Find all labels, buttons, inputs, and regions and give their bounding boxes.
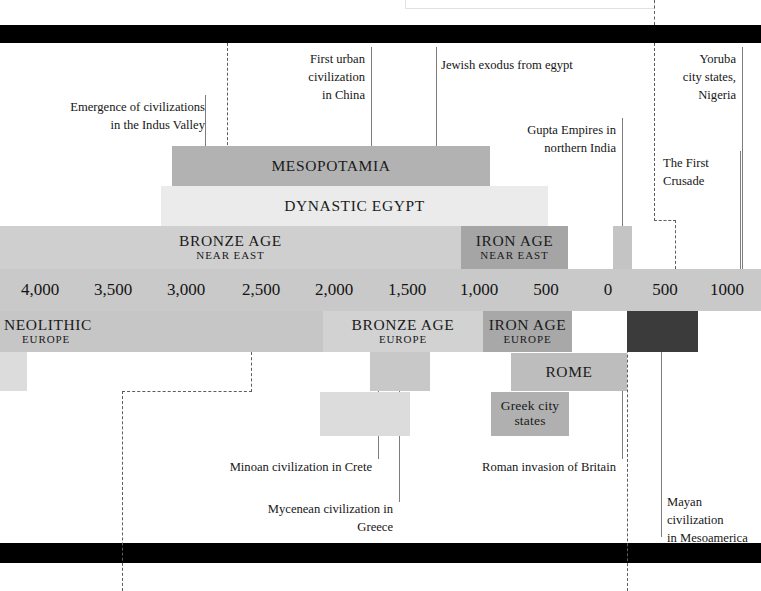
timeline-infographic: MESOPOTAMIA DYNASTIC EGYPT BRONZE AGE NE…	[0, 0, 761, 591]
dashed-guide-neolithic-lower	[122, 391, 123, 591]
bar-bronze-age-near-east[interactable]: BRONZE AGE NEAR EAST	[0, 226, 461, 269]
bar-title: Greek city states	[491, 399, 569, 428]
bar-mesopotamia[interactable]: MESOPOTAMIA	[172, 146, 490, 186]
bar-title: IRON AGE	[476, 233, 554, 250]
scale-tick: 2,500	[242, 269, 280, 311]
bar-bronze-age-europe[interactable]: BRONZE AGE EUROPE	[323, 311, 483, 352]
dashed-guide-neolithic-upper	[251, 352, 252, 392]
bar-title: ROME	[545, 364, 592, 381]
bar-subtitle: EUROPE	[503, 334, 551, 346]
scale-tick: 2,000	[315, 269, 353, 311]
bar-greek-city-states[interactable]: Greek city states	[491, 392, 569, 436]
scale-tick: 500	[652, 269, 678, 311]
leader-mayan-mesoamerica	[661, 323, 662, 537]
scale-tick: 1000	[710, 269, 744, 311]
bar-subtitle: NEAR EAST	[480, 250, 548, 262]
top-frame-outline	[405, 0, 655, 9]
leader-yoruba	[742, 47, 743, 269]
dashed-guide-crusade	[654, 43, 655, 221]
annotation-jewish-exodus: Jewish exodus from egypt	[441, 57, 641, 75]
bar-neolithic-tail[interactable]	[0, 352, 27, 391]
bar-minoan-civilization[interactable]	[320, 392, 410, 436]
scale-tick: 3,500	[94, 269, 132, 311]
scale-tick: 4,000	[21, 269, 59, 311]
bar-title: NEOLITHIC	[4, 317, 92, 334]
bar-title: BRONZE AGE	[352, 317, 455, 334]
bar-mycenean-civilization[interactable]	[370, 352, 430, 391]
bar-iron-age-near-east[interactable]: IRON AGE NEAR EAST	[461, 226, 568, 269]
top-black-band	[0, 25, 761, 43]
annotation-gupta-empires: Gupta Empires in northern India	[503, 122, 616, 158]
bar-title: DYNASTIC EGYPT	[284, 198, 425, 215]
timeline-scale: 4,000 3,500 3,000 2,500 2,000 1,500 1,00…	[0, 269, 761, 311]
bar-mayan-civilization[interactable]	[627, 311, 698, 352]
scale-tick: 500	[533, 269, 559, 311]
annotation-first-crusade: The First Crusade	[663, 155, 737, 191]
annotation-mycenean-greece: Mycenean civilization in Greece	[231, 501, 393, 537]
scale-tick: 1,500	[388, 269, 426, 311]
annotation-indus-valley: Emergence of civilizations in the Indus …	[60, 99, 205, 135]
dashed-guide-mayan-upper	[654, 0, 655, 25]
dashed-elbow-neolithic	[122, 391, 252, 392]
scale-tick: 3,000	[167, 269, 205, 311]
bar-iron-age-europe[interactable]: IRON AGE EUROPE	[483, 311, 572, 352]
bar-title: BRONZE AGE	[179, 233, 282, 250]
bottom-black-band	[0, 543, 761, 563]
annotation-mayan-mesoamerica: Mayan civilization in Mesoamerica	[667, 494, 761, 548]
bar-dynastic-egypt[interactable]: DYNASTIC EGYPT	[161, 186, 548, 226]
bar-subtitle: NEAR EAST	[196, 250, 264, 262]
scale-tick: 1,000	[460, 269, 498, 311]
annotation-minoan-crete: Minoan civilization in Crete	[228, 459, 372, 477]
bar-title: IRON AGE	[489, 317, 567, 334]
bar-neolithic-europe[interactable]: NEOLITHIC EUROPE	[0, 311, 323, 352]
annotation-first-urban-china: First urban civilization in China	[286, 51, 365, 105]
bar-subtitle: EUROPE	[22, 334, 70, 346]
bar-title: MESOPOTAMIA	[271, 158, 390, 175]
leader-first-crusade	[740, 151, 741, 269]
dashed-elbow-crusade	[654, 220, 676, 221]
dashed-guide-crusade-down	[675, 220, 676, 269]
annotation-roman-invasion-britain: Roman invasion of Britain	[481, 459, 616, 477]
bar-gupta-empires[interactable]	[613, 226, 632, 269]
bar-rome[interactable]: ROME	[511, 353, 627, 391]
bar-subtitle: EUROPE	[379, 334, 427, 346]
annotation-yoruba-city-states: Yoruba city states, Nigeria	[666, 51, 736, 105]
scale-tick: 0	[604, 269, 613, 311]
leader-roman-invasion	[622, 391, 623, 459]
leader-indus-valley	[205, 95, 206, 146]
